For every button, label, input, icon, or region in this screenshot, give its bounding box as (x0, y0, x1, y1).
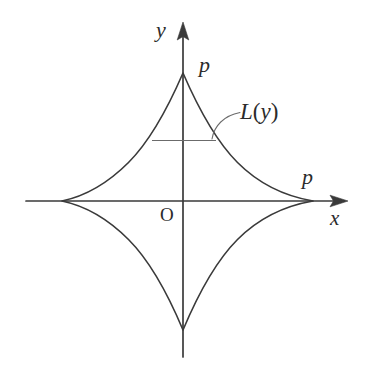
y-axis-label: y (156, 19, 166, 41)
chord-length-label-arg: y (260, 99, 270, 124)
astroid-figure: y x p p O L(y) (0, 0, 367, 380)
chord-length-label-close-paren: ) (271, 99, 279, 124)
astroid-diagram-svg (0, 0, 367, 380)
x-axis-label: x (330, 208, 339, 229)
chord-length-label: L(y) (240, 100, 278, 123)
p-label-top-cusp: p (199, 54, 210, 76)
chord-length-label-L: L (240, 99, 253, 124)
origin-label: O (160, 205, 174, 224)
p-label-right-cusp: p (302, 166, 313, 188)
